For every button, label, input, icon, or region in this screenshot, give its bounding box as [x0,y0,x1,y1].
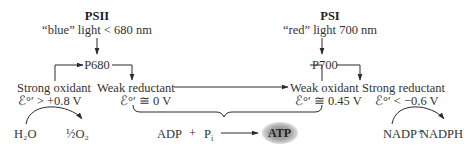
p680-label: P680 [84,58,110,72]
p700-to-reductant-arrow [337,65,360,80]
psi-light-label: “red” light 700 nm [283,23,377,37]
water-label: H₂O [14,127,36,141]
oxygen-label: ½O₂ [66,127,89,141]
psii-oxidant-to-p680-arrow [55,65,83,81]
p680-to-reductant-arrow [112,65,132,80]
psii-reductant-potential: ℰ°′ ≅ 0 V [120,94,171,108]
plus-sign: + [189,126,196,140]
adp-label: ADP [157,127,182,141]
nadp-reduction-arrow [392,107,444,124]
atp-label: ATP [268,126,291,141]
psii-weak-reductant-label: Weak reductant [97,81,175,95]
psi-title: PSI [320,9,339,23]
phosphate-label: Pi [204,127,213,146]
psi-weak-oxidant-label: Weak oxidant [290,81,359,95]
psii-light-label: “blue” light < 680 nm [42,23,152,37]
psi-strong-reductant-label: Strong reductant [362,81,445,95]
nadp-label: NADP⁺ [383,127,424,141]
psii-oxidant-potential: ℰ°′ > +0.8 V [18,94,82,108]
psi-oxidant-potential: ℰ°′ ≅ 0.45 V [295,94,362,108]
water-oxidation-arrow [26,107,82,124]
psii-title: PSII [85,9,109,23]
p700-label: P700 [312,58,338,72]
psi-reductant-potential: ℰ°′ < −0.6 V [375,94,439,108]
nadph-label: NADPH [420,127,463,141]
psii-strong-oxidant-label: Strong oxidant [17,81,91,95]
